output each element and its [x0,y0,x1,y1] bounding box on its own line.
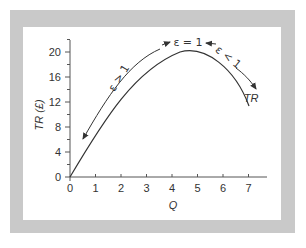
y-tick-16: 16 [49,71,61,83]
x-tick-1: 1 [92,182,98,194]
x-tick-0: 0 [67,182,73,194]
y-tick-0: 0 [55,171,61,183]
x-tick-5: 5 [194,182,200,194]
y-tick-labels: 0 4 8 12 16 20 [49,46,61,183]
elastic-label: ε > 1 [106,62,132,94]
y-axis-label: TR (£) [33,99,45,131]
y-tick-4: 4 [55,146,61,158]
x-tick-4: 4 [169,182,175,194]
x-tick-7: 7 [245,182,251,194]
tr-curve [70,51,249,177]
y-tick-20: 20 [49,46,61,58]
tr-curve-label: TR [244,92,259,104]
inelastic-label: ε < 1 [213,43,244,71]
y-tick-12: 12 [49,96,61,108]
unit-elastic-arrow-right [206,43,216,44]
y-ticks [65,40,70,178]
unit-elastic-arrow-left [162,42,170,45]
x-tick-labels: 0 1 2 3 4 5 6 7 [67,182,252,194]
tr-chart: 0 4 8 12 16 20 0 1 2 3 4 5 6 7 Q TR (£) … [0,0,306,248]
unit-elastic-label: ε = 1 [173,36,202,49]
x-tick-3: 3 [143,182,149,194]
y-tick-8: 8 [55,121,61,133]
x-tick-6: 6 [220,182,226,194]
x-tick-2: 2 [118,182,124,194]
x-axis-label: Q [169,199,178,211]
